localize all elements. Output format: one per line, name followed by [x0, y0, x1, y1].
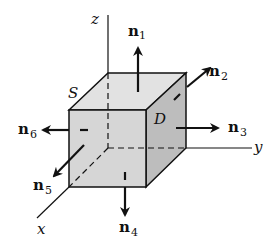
- svg-text:n: n: [128, 22, 139, 40]
- y-axis-label: y: [253, 138, 263, 156]
- svg-text:4: 4: [131, 226, 138, 239]
- svg-text:n: n: [18, 120, 29, 138]
- svg-text:3: 3: [240, 126, 247, 139]
- svg-text:6: 6: [30, 128, 37, 141]
- svg-text:2: 2: [221, 70, 228, 83]
- x-axis-label: x: [37, 220, 46, 238]
- svg-text:n: n: [228, 118, 239, 136]
- normal-n6-label: n 6: [18, 120, 37, 141]
- cube-normals-diagram: z y x S D n 1 n 2 n 3 n 4 n 5 n 6: [0, 0, 274, 247]
- normal-n3-label: n 3: [228, 118, 247, 139]
- svg-text:n: n: [209, 62, 220, 80]
- svg-text:1: 1: [139, 29, 146, 42]
- normal-n4-label: n 4: [119, 218, 138, 239]
- svg-text:n: n: [119, 218, 130, 236]
- svg-text:n: n: [33, 176, 44, 194]
- solid-label: D: [153, 110, 166, 128]
- normal-n2-arrow: [187, 68, 210, 87]
- surface-label: S: [68, 84, 78, 102]
- svg-text:5: 5: [45, 184, 52, 197]
- z-axis-label: z: [90, 10, 99, 28]
- normal-n1-label: n 1: [128, 22, 146, 42]
- normal-n2-label: n 2: [209, 62, 228, 83]
- normal-n5-label: n 5: [33, 176, 52, 197]
